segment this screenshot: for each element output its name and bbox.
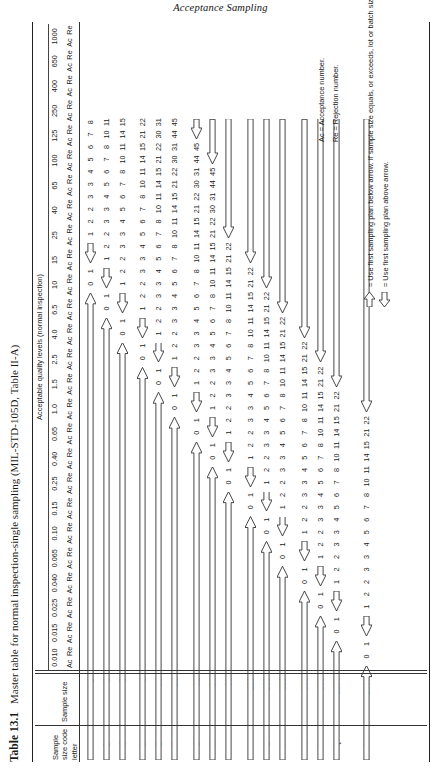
up-arrow-icon bbox=[245, 467, 256, 487]
rejection-number: 2 bbox=[278, 489, 287, 501]
acceptance-number: 10 bbox=[154, 203, 163, 215]
acceptance-number: 21 bbox=[224, 253, 233, 265]
acceptance-number: 14 bbox=[332, 427, 341, 439]
rejection-number: 3 bbox=[102, 215, 111, 227]
ac-subheader: Ac bbox=[65, 161, 74, 173]
aql-column-header: 25 bbox=[50, 223, 59, 248]
rejection-number: 31 bbox=[208, 190, 217, 202]
acceptance-number: 1 bbox=[246, 451, 255, 463]
re-subheader: Re bbox=[65, 645, 74, 657]
rejection-number: 6 bbox=[170, 265, 179, 277]
rejection-number: 4 bbox=[86, 166, 95, 178]
rejection-number: 15 bbox=[208, 240, 217, 252]
ac-subheader: Ac bbox=[65, 508, 74, 520]
acceptance-number: 5 bbox=[224, 352, 233, 364]
rejection-number: 1 bbox=[138, 340, 147, 352]
ac-subheader: Ac bbox=[65, 36, 74, 48]
rejection-number: 1 bbox=[102, 290, 111, 302]
acceptance-number: 14 bbox=[246, 302, 255, 314]
ac-subheader: Ac bbox=[65, 558, 74, 570]
up-arrow-icon bbox=[261, 492, 272, 512]
aql-column-headers: 0.0100.0150.0250.0400.0650.100.150.250.4… bbox=[50, 24, 66, 670]
re-subheader: Re bbox=[65, 272, 74, 284]
acceptance-number: 1 bbox=[102, 253, 111, 265]
rejection-number: 1 bbox=[154, 364, 163, 376]
acceptance-number: 5 bbox=[300, 451, 309, 463]
acceptance-number: 10 bbox=[332, 451, 341, 463]
rejection-number: 15 bbox=[316, 389, 325, 401]
acceptance-number: 10 bbox=[170, 228, 179, 240]
aql-column-header: 0.015 bbox=[50, 620, 59, 645]
re-subheader: Re bbox=[65, 496, 74, 508]
ac-subheader: Ac bbox=[65, 658, 74, 670]
ac-subheader: Ac bbox=[65, 260, 74, 272]
acceptance-number: 7 bbox=[118, 178, 127, 190]
ac-subheader: Ac bbox=[65, 384, 74, 396]
acceptance-number: 3 bbox=[170, 302, 179, 314]
aql-column-header: 0.10 bbox=[50, 521, 59, 546]
ac-subheader: Ac bbox=[65, 136, 74, 148]
acceptance-number: 1 bbox=[300, 526, 309, 538]
rejection-number: 11 bbox=[138, 166, 147, 178]
rejection-number: 2 bbox=[332, 563, 341, 575]
aql-column-header: 1.0 bbox=[50, 397, 59, 422]
rejection-number: 2 bbox=[262, 464, 271, 476]
rejection-number: 4 bbox=[362, 538, 371, 550]
rejection-number: 3 bbox=[278, 464, 287, 476]
up-arrow-icon bbox=[315, 566, 326, 586]
rejection-number: 15 bbox=[170, 190, 179, 202]
up-arrow-icon bbox=[379, 291, 390, 307]
rejection-number: 11 bbox=[170, 215, 179, 227]
aql-column-header: 4.0 bbox=[50, 322, 59, 347]
acceptance-number: 7 bbox=[278, 402, 287, 414]
acceptance-number: 3 bbox=[300, 476, 309, 488]
rejection-number: 1 bbox=[300, 563, 309, 575]
table-frame: Acceptable quality levels (normal inspec… bbox=[32, 22, 430, 762]
acceptance-number: 3 bbox=[86, 178, 95, 190]
rejection-number: 6 bbox=[316, 464, 325, 476]
up-arrow-icon bbox=[223, 119, 234, 238]
down-arrow-icon bbox=[85, 293, 96, 760]
down-arrow-icon bbox=[261, 541, 272, 760]
up-arrow-icon bbox=[137, 318, 148, 338]
rejection-number: 3 bbox=[208, 364, 217, 376]
up-arrow-icon bbox=[277, 517, 288, 537]
acceptance-number: 2 bbox=[86, 203, 95, 215]
acceptance-number: 0 bbox=[224, 476, 233, 488]
aql-column-header: 1.5 bbox=[50, 372, 59, 397]
acceptance-number: 5 bbox=[170, 277, 179, 289]
acceptance-number: 10 bbox=[300, 402, 309, 414]
rejection-number: 8 bbox=[102, 141, 111, 153]
rejection-number: 11 bbox=[192, 240, 201, 252]
rejection-number: 11 bbox=[316, 414, 325, 426]
rejection-number: 3 bbox=[170, 315, 179, 327]
acceptance-number: 2 bbox=[118, 253, 127, 265]
acceptance-number: 7 bbox=[208, 302, 217, 314]
acceptance-number: 30 bbox=[170, 153, 179, 165]
acceptance-number: 1 bbox=[118, 277, 127, 289]
acceptance-number: 10 bbox=[278, 377, 287, 389]
up-arrow-icon bbox=[361, 616, 372, 636]
rejection-number: 15 bbox=[362, 439, 371, 451]
acceptance-number: 5 bbox=[362, 526, 371, 538]
rejection-number: 2 bbox=[170, 340, 179, 352]
rejection-number: 2 bbox=[86, 215, 95, 227]
acceptance-number: 14 bbox=[316, 402, 325, 414]
up-arrow-icon bbox=[261, 119, 272, 288]
acceptance-number: 5 bbox=[86, 153, 95, 165]
ac-subheader: Ac bbox=[65, 86, 74, 98]
acceptance-number: 30 bbox=[208, 203, 217, 215]
rejection-number: 6 bbox=[102, 166, 111, 178]
acceptance-number: 7 bbox=[262, 377, 271, 389]
rejection-number: 22 bbox=[362, 414, 371, 426]
acceptance-number: 5 bbox=[138, 228, 147, 240]
rejection-number: 11 bbox=[332, 439, 341, 451]
aql-column-header: 0.065 bbox=[50, 546, 59, 571]
rejection-number: 6 bbox=[208, 315, 217, 327]
rejection-number: 1 bbox=[246, 489, 255, 501]
aql-column-header: 10 bbox=[50, 272, 59, 297]
ac-subheader: Ac bbox=[65, 484, 74, 496]
up-arrow-icon bbox=[223, 442, 234, 462]
down-arrow-icon bbox=[223, 492, 234, 760]
rejection-number: 8 bbox=[224, 315, 233, 327]
